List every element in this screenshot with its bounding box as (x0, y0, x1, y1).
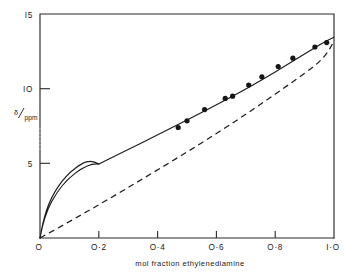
data-point (230, 94, 235, 99)
y-axis-label-slash (19, 108, 25, 118)
experimental-curve-upper (99, 37, 334, 164)
data-point (176, 125, 181, 130)
y-axis-ticks (40, 89, 50, 164)
experimental-curve-lower (40, 161, 99, 238)
figure-container: I5 IO 5 O O·2 O·4 O·6 O·8 I·O δ ppm mol … (0, 0, 349, 279)
x-tick-label-0-4: O·4 (150, 243, 166, 252)
y-tick-label-15: I5 (25, 11, 33, 20)
x-tick-label-0: O (35, 243, 42, 252)
data-point (223, 96, 228, 101)
data-point (184, 118, 189, 123)
y-axis-label-denominator: ppm (25, 114, 38, 122)
x-tick-label-0-2: O·2 (91, 243, 107, 252)
x-axis-ticks (99, 231, 275, 238)
data-point (246, 82, 251, 87)
data-point (202, 107, 207, 112)
y-tick-label-5: 5 (28, 160, 33, 169)
x-tick-label-0-8: O·8 (267, 243, 283, 252)
y-axis-label-numerator: δ (14, 108, 18, 117)
y-axis-label: δ ppm (14, 108, 38, 122)
x-tick-label-0-6: O·6 (209, 243, 225, 252)
plot-frame (40, 14, 334, 238)
data-point (276, 64, 281, 69)
data-point (324, 40, 329, 45)
data-point (259, 74, 264, 79)
x-tick-label-1-0: I·O (326, 243, 339, 252)
chart-canvas: I5 IO 5 O O·2 O·4 O·6 O·8 I·O δ ppm mol … (0, 0, 349, 279)
data-point (312, 44, 317, 49)
x-axis-title: mol fraction ethylenediamine (135, 259, 244, 268)
data-point (290, 56, 295, 61)
y-tick-label-10: IO (23, 85, 33, 94)
ideal-reference-line (40, 40, 334, 238)
